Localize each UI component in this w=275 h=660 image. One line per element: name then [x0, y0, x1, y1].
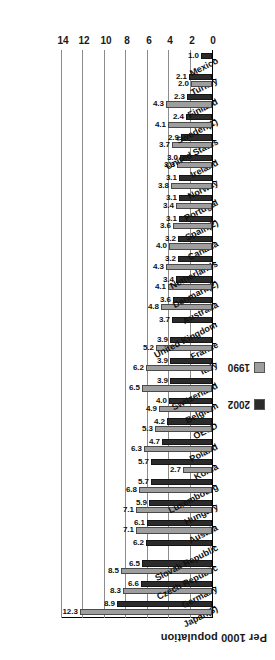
- bar-slot-1990: 4.1: [63, 122, 212, 128]
- bar-value-label: 6.6: [128, 580, 139, 588]
- bar-slot-1990: 6.2: [63, 365, 212, 371]
- bar-value-label: 3.6: [160, 296, 171, 304]
- bar-slot-1990: 3.8: [63, 183, 212, 189]
- bar-value-label: 7.1: [123, 527, 134, 535]
- bar-2002: [162, 439, 212, 445]
- bar-1990: [142, 385, 212, 391]
- bar-value-label: 2.0: [177, 80, 188, 88]
- bar-1990: [139, 487, 212, 493]
- bar-row: Norway3.83.1: [63, 172, 212, 192]
- bar-1990: [155, 426, 212, 432]
- bar-value-label: 8.3: [110, 587, 121, 595]
- bar-value-label: 4.8: [147, 303, 158, 311]
- gridline-14: [61, 50, 62, 618]
- bar-value-label: 8.5: [108, 567, 119, 575]
- axis-tick-label-0: 0: [210, 35, 216, 46]
- bar-slot-1990: 3.4: [63, 203, 212, 209]
- bar-slot-2002: 1.0: [63, 53, 212, 59]
- bar-2002: [201, 53, 212, 59]
- bar-value-label: 3.2: [165, 235, 176, 243]
- legend-item-2002: 2002: [228, 399, 265, 410]
- bar-1990: [145, 446, 213, 452]
- legend-swatch-1990: [254, 362, 265, 373]
- value-axis: 02468101214: [63, 20, 213, 50]
- bar-slot-2002: 5.7: [63, 479, 212, 485]
- bar-1990: [166, 264, 212, 270]
- bar-1990: [173, 223, 212, 229]
- legend-label-1990: 1990: [228, 362, 250, 373]
- bar-slot-1990: 4.3: [63, 264, 212, 270]
- bar-value-label: 3.7: [159, 141, 170, 149]
- bar-1990: [146, 365, 212, 371]
- bar-value-label: 1.0: [188, 52, 199, 60]
- bar-value-label: 4.2: [154, 418, 165, 426]
- bar-2002: [151, 479, 212, 485]
- bar-2002: [146, 540, 212, 546]
- bar-slot-1990: 3.7: [63, 142, 212, 148]
- axis-title: Per 1000 population: [161, 632, 267, 644]
- axis-tick-label-8: 8: [125, 35, 131, 46]
- bar-row: Finland4.32.3: [63, 91, 212, 111]
- bar-row: Luxembourg6.85.7: [63, 476, 212, 496]
- bar-value-label: 3.7: [159, 316, 170, 324]
- bar-2002: [170, 378, 212, 384]
- bar-1990: [171, 183, 212, 189]
- axis-tick-label-2: 2: [189, 35, 195, 46]
- bar-value-label: 8.9: [104, 600, 115, 608]
- axis-tick-label-6: 6: [146, 35, 152, 46]
- bar-slot-1990: 3.3: [63, 162, 212, 168]
- bar-slot-1990: [63, 61, 212, 67]
- bar-slot-1990: 3.6: [63, 223, 212, 229]
- bar-slot-1990: 6.8: [63, 487, 212, 493]
- bar-value-label: 5.7: [138, 478, 149, 486]
- bar-value-label: 12.3: [63, 608, 79, 616]
- bar-value-label: 3.8: [158, 182, 169, 190]
- bar-rows: Japan(3)12.38.9Germany8.36.6Czech Republ…: [63, 50, 212, 618]
- bar-slot-1990: 7.1: [63, 527, 212, 533]
- bar-slot-1990: 6.5: [63, 385, 212, 391]
- bar-slot-2002: 3.9: [63, 378, 212, 384]
- bar-slot-2002: 4.7: [63, 439, 212, 445]
- bar-value-label: 6.1: [134, 519, 145, 527]
- bar-value-label: 6.2: [132, 364, 143, 372]
- bar-value-label: 5.3: [142, 425, 153, 433]
- bar-2002: [187, 94, 212, 100]
- bar-value-label: 2.1: [176, 73, 187, 81]
- plot-area: Japan(3)12.38.9Germany8.36.6Czech Republ…: [63, 50, 213, 618]
- bar-slot-1990: 6.3: [63, 446, 212, 452]
- bar-1990: [161, 304, 212, 310]
- bar-2002: [147, 520, 212, 526]
- bar-1990: [183, 467, 212, 473]
- bar-value-label: 2.4: [173, 113, 184, 121]
- bar-1990: [191, 81, 212, 87]
- bar-slot-1990: 4.0: [63, 243, 212, 249]
- bar-value-label: 3.1: [166, 174, 177, 182]
- bar-value-label: 4.3: [153, 101, 164, 109]
- bar-value-label: 3.6: [160, 222, 171, 230]
- bar-value-label: 4.7: [149, 438, 160, 446]
- bar-slot-1990: 4.3: [63, 101, 212, 107]
- bar-value-label: 3.2: [165, 255, 176, 263]
- legend-label-2002: 2002: [228, 399, 250, 410]
- rotated-figure-wrapper: Per 1000 population 2002 1990 Japan(3)12…: [0, 0, 275, 660]
- bar-value-label: 2.7: [170, 466, 181, 474]
- bar-value-label: 3.1: [166, 215, 177, 223]
- bar-row: Italy6.23.9: [63, 354, 212, 374]
- legend-item-1990: 1990: [228, 362, 265, 373]
- bar-1990: [166, 101, 212, 107]
- bar-slot-2002: 2.3: [63, 94, 212, 100]
- bar-value-label: 6.5: [129, 385, 140, 393]
- bar-1990: [169, 243, 212, 249]
- bar-value-label: 6.3: [131, 445, 142, 453]
- bar-value-label: 3.1: [166, 194, 177, 202]
- bar-1990: [160, 406, 213, 412]
- bar-1990: [176, 203, 212, 209]
- bar-slot-1990: 2.0: [63, 81, 212, 87]
- bar-value-label: 6.5: [129, 560, 140, 568]
- bar-slot-1990: 5.3: [63, 426, 212, 432]
- bar-slot-1990: 8.3: [63, 588, 212, 594]
- bar-value-label: 4.0: [156, 243, 167, 251]
- axis-tick-label-12: 12: [79, 35, 90, 46]
- bar-slot-2002: 3.9: [63, 358, 212, 364]
- bar-value-label: 4.9: [146, 405, 157, 413]
